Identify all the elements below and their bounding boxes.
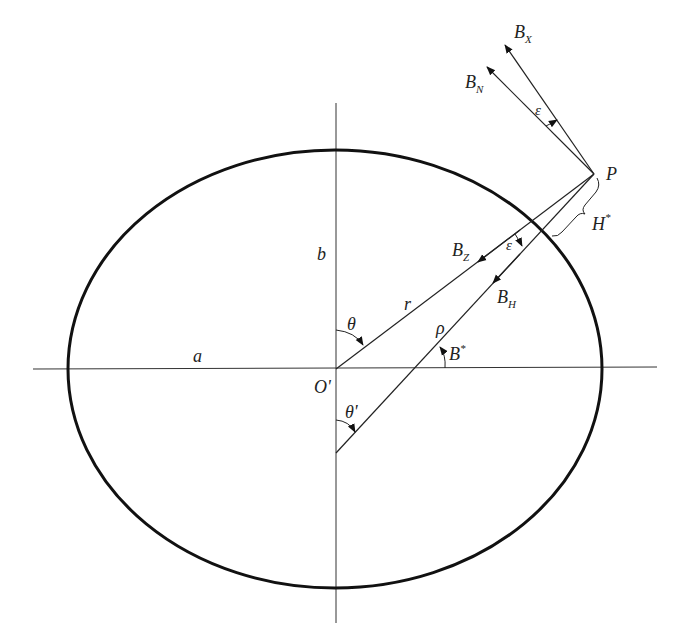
label-bh: BH — [497, 287, 517, 310]
epsilon-top-arc — [546, 120, 557, 126]
label-b: b — [317, 244, 326, 264]
label-epsilon-top: ε — [535, 102, 541, 118]
geodetic-normal-line — [336, 174, 594, 453]
label-theta-prime: θ' — [345, 402, 359, 422]
label-origin: O' — [314, 377, 332, 397]
bx-vector — [505, 45, 594, 174]
x-axis — [33, 367, 657, 369]
label-P: P — [605, 164, 617, 184]
epsilon-mid-arc — [515, 234, 522, 246]
label-b-star: B* — [449, 342, 466, 364]
label-bz: BZ — [452, 240, 470, 263]
label-h-star: H* — [591, 211, 611, 234]
label-epsilon-mid: ε — [506, 237, 512, 253]
bz-arrow — [478, 230, 520, 262]
label-a: a — [193, 346, 202, 366]
label-r: r — [404, 294, 412, 314]
bn-vector — [487, 67, 594, 174]
label-bx: BX — [514, 22, 533, 45]
label-bn: BN — [465, 72, 484, 95]
b-star-arc — [440, 347, 445, 368]
bh-arrow — [493, 254, 520, 283]
ellipsoid-diagram: a b O' r ρ θ θ' B* ε ε P H* BX BN BZ BH — [0, 0, 677, 644]
label-rho: ρ — [435, 318, 445, 338]
geocentric-radius-line — [336, 174, 594, 369]
label-theta: θ — [347, 314, 356, 334]
